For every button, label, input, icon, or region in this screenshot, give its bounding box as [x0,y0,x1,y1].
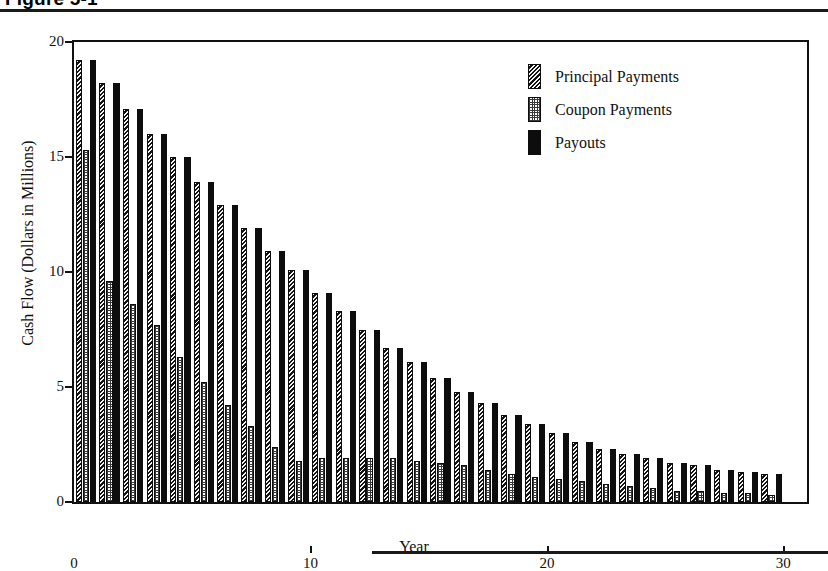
bar-dots [437,463,443,502]
bar-dots [154,325,160,502]
bar-dots [461,465,467,502]
y-axis-title-wrap: Cash Flow (Dollars in Millions) [19,23,41,463]
bar-hatch [454,392,460,502]
bar-solid [681,463,687,502]
bar-hatch [690,465,696,502]
y-tick-mark [65,156,73,158]
legend-item: Principal Payments [528,62,778,95]
bar-dots [319,458,325,502]
bar-group [123,42,143,502]
bar-group [430,42,450,502]
bar-solid [397,348,403,502]
bar-solid [539,424,545,502]
bar-dots [201,382,207,502]
bar-dots [106,281,112,502]
bar-dots [177,357,183,502]
bar-dots [248,426,254,502]
bar-dots [697,491,703,503]
chart-legend: Principal PaymentsCoupon PaymentsPayouts [528,62,778,161]
legend-label: Principal Payments [555,64,679,89]
bar-hatch [501,415,507,502]
bar-hatch [525,424,531,502]
bar-dots [650,488,656,502]
bar-solid [776,474,782,502]
bar-hatch [738,472,744,502]
bar-group [265,42,285,502]
bar-hatch [123,109,129,502]
bar-hatch [359,330,365,503]
bar-group [147,42,167,502]
bar-hatch [667,463,673,502]
bar-group [288,42,308,502]
bar-solid [255,228,261,502]
bar-hatch [241,228,247,502]
bar-dots [532,477,538,502]
bar-solid [515,415,521,502]
bar-hatch [99,83,105,502]
bar-hatch [147,134,153,502]
bar-dots [556,479,562,502]
bar-group [312,42,332,502]
bar-solid [90,60,96,502]
bar-solid [752,472,758,502]
bar-hatch [336,311,342,502]
bar-group [99,42,119,502]
bar-dots [674,491,680,503]
bar-dots [296,461,302,502]
bar-hatch [619,454,625,502]
legend-item: Payouts [528,128,778,161]
bar-hatch [714,470,720,502]
bar-solid [374,330,380,503]
bar-hatch [194,182,200,502]
legend-item: Coupon Payments [528,95,778,128]
y-tick-mark [65,271,73,273]
bar-hatch [761,474,767,502]
figure-caption: Figure 5-1 [5,0,98,9]
y-tick-mark [65,386,73,388]
bar-solid [137,109,143,502]
bar-solid [586,442,592,502]
bar-group [383,42,403,502]
bar-solid [113,83,119,502]
bar-solid [492,403,498,502]
bar-hatch [383,348,389,502]
x-tick-label: 30 [763,556,803,571]
x-tick-label: 0 [54,556,94,571]
legend-label: Payouts [555,130,606,155]
y-axis-title: Cash Flow (Dollars in Millions) [19,23,37,463]
bar-dots [390,458,396,502]
bar-solid [279,251,285,502]
bar-group [194,42,214,502]
bar-dots [485,470,491,502]
bar-dots [225,405,231,502]
x-tick-label: 20 [527,556,567,571]
bar-solid [326,293,332,502]
bar-solid [184,157,190,502]
bar-group [478,42,498,502]
bar-solid [563,433,569,502]
bar-solid [232,205,238,502]
bar-dots [508,474,514,502]
y-tick-label: 0 [30,494,64,509]
bar-hatch [596,449,602,502]
bar-hatch [407,362,413,502]
bar-hatch [549,433,555,502]
x-tick-label: 10 [290,556,330,571]
legend-label: Coupon Payments [555,97,672,122]
bar-group [217,42,237,502]
bar-group [170,42,190,502]
bar-dots [272,447,278,502]
bar-hatch [170,157,176,502]
bar-hatch [217,205,223,502]
caption-rule [0,9,828,12]
bar-solid [468,392,474,502]
bar-group [241,42,261,502]
bar-dots [414,461,420,502]
bar-hatch [572,442,578,502]
figure-caption-strip: Figure 5-1 [0,0,828,9]
bar-group [454,42,474,502]
bar-solid [421,362,427,502]
bar-hatch [288,270,294,502]
bar-hatch [265,251,271,502]
bottom-rule [372,551,828,554]
